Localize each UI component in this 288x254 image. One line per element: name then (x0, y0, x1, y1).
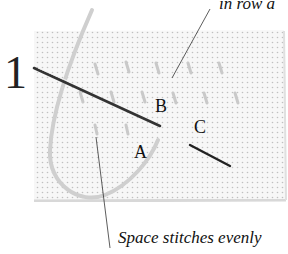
callout-top-text: in row a (219, 0, 275, 14)
point-label-c: C (194, 117, 206, 138)
stitch-diagram: 1 in row a Space stitches evenly B C A (0, 0, 288, 254)
point-label-b: B (155, 96, 167, 117)
step-number: 1 (4, 46, 27, 99)
fabric-illustration (0, 0, 288, 254)
point-label-a: A (134, 142, 147, 163)
callout-bottom-text: Space stitches evenly (118, 228, 262, 248)
